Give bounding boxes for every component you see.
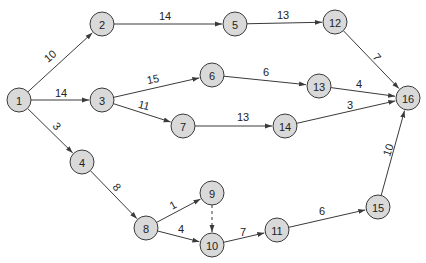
node-16: 16: [396, 86, 420, 110]
node-label: 3: [99, 95, 105, 107]
edge-12-16: [343, 31, 399, 89]
node-label: 12: [329, 17, 341, 29]
node-12: 12: [323, 10, 347, 34]
edge-weight-label: 3: [347, 99, 353, 111]
edge-weight-label: 8: [110, 181, 123, 193]
node-8: 8: [134, 216, 158, 240]
node-15: 15: [366, 195, 390, 219]
node-label: 10: [206, 240, 218, 252]
nodes-group: 12345678910111213141516: [7, 10, 420, 257]
node-label: 9: [209, 188, 215, 200]
node-label: 11: [271, 225, 282, 237]
edge-labels-group: 10143141511813613147674310: [41, 9, 395, 238]
node-label: 1: [16, 95, 22, 107]
node-6: 6: [200, 63, 224, 87]
edge-weight-label: 4: [356, 78, 362, 90]
edges-group: [28, 22, 405, 242]
node-9: 9: [200, 181, 224, 205]
node-label: 5: [232, 19, 238, 31]
node-label: 6: [209, 70, 215, 82]
node-1: 1: [7, 88, 31, 112]
edge-5-12: [247, 22, 322, 24]
node-2: 2: [90, 12, 114, 36]
node-7: 7: [171, 114, 195, 138]
edge-1-4: [28, 108, 73, 152]
edge-13-16: [331, 88, 395, 97]
node-label: 13: [313, 81, 325, 93]
node-label: 2: [99, 19, 105, 31]
node-13: 13: [307, 74, 331, 98]
edge-weight-label: 7: [240, 226, 246, 238]
edge-weight-label: 6: [319, 205, 325, 217]
node-3: 3: [90, 88, 114, 112]
node-label: 8: [143, 223, 149, 235]
edge-weight-label: 13: [237, 111, 249, 123]
edge-weight-label: 14: [159, 10, 171, 22]
edge-weight-label: 6: [263, 66, 269, 78]
edge-weight-label: 14: [55, 87, 67, 99]
edge-weight-label: 1: [167, 198, 178, 211]
edge-weight-label: 3: [50, 120, 63, 132]
edge-weight-label: 10: [380, 142, 395, 158]
node-label: 15: [372, 202, 384, 214]
node-11: 11: [265, 218, 289, 242]
edge-weight-label: 10: [41, 47, 58, 64]
edge-11-15: [289, 210, 366, 227]
edge-weight-label: 13: [277, 9, 289, 21]
node-label: 7: [180, 121, 186, 133]
edge-1-2: [28, 33, 93, 92]
edge-weight-label: 4: [178, 223, 184, 235]
node-label: 4: [79, 157, 85, 169]
node-10: 10: [200, 233, 224, 257]
node-label: 16: [402, 93, 414, 105]
node-5: 5: [223, 12, 247, 36]
edge-8-9: [157, 199, 201, 222]
edge-weight-label: 15: [146, 72, 160, 86]
network-diagram: 10143141511813613147674310 1234567891011…: [0, 0, 426, 263]
node-4: 4: [70, 150, 94, 174]
node-14: 14: [273, 114, 297, 138]
edge-weight-label: 11: [137, 98, 151, 113]
node-label: 14: [279, 121, 291, 133]
edge-4-8: [90, 171, 137, 219]
